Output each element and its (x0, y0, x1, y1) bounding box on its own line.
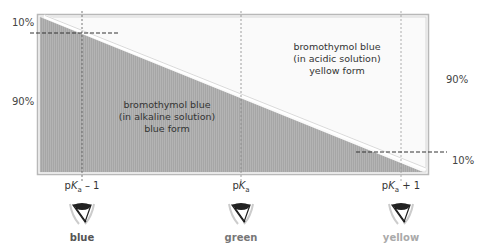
color-word-yellow: yellow (371, 232, 431, 243)
acidic-region-label: bromothymol blue (in acidic solution) ye… (287, 41, 387, 77)
diagram-graphic (0, 0, 485, 251)
eye-icon-yellow (389, 203, 413, 224)
color-word-blue: blue (52, 232, 112, 243)
acidic-label-line3: yellow form (287, 65, 387, 77)
eye-icon-blue (70, 203, 94, 224)
alkaline-region-label: bromothymol blue (in alkaline solution) … (117, 99, 217, 135)
pka-label: pKa (211, 180, 271, 194)
eye-icon-green (229, 203, 253, 224)
color-word-green: green (211, 232, 271, 243)
right-label-10pct: 10% (452, 155, 474, 166)
pka-plus-1-label: pKa + 1 (371, 180, 431, 194)
alkaline-label-line2: (in alkaline solution) (117, 111, 217, 123)
alkaline-label-line1: bromothymol blue (117, 99, 217, 111)
acidic-label-line1: bromothymol blue (287, 41, 387, 53)
alkaline-label-line3: blue form (117, 123, 217, 135)
acidic-label-line2: (in acidic solution) (287, 53, 387, 65)
left-label-90pct: 90% (12, 96, 34, 107)
right-label-90pct: 90% (446, 74, 468, 85)
left-label-10pct: 10% (12, 17, 34, 28)
pka-minus-1-label: pKa – 1 (52, 180, 112, 194)
